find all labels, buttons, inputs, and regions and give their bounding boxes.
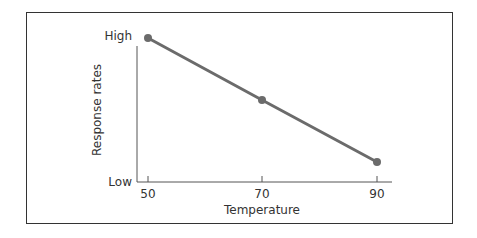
x-tick-label-50: 50 — [140, 187, 155, 201]
x-axis-title: Temperature — [223, 203, 300, 217]
y-axis-title: Response rates — [90, 64, 104, 156]
data-point-90 — [373, 158, 381, 166]
data-point-50 — [144, 34, 152, 42]
y-tick-label-high: High — [104, 29, 132, 43]
x-tick-label-90: 90 — [369, 187, 384, 201]
y-tick-label-low: Low — [108, 175, 132, 189]
line-chart: 50 70 90 High Low Temperature Response r… — [0, 0, 477, 238]
data-point-70 — [258, 96, 266, 104]
x-tick-label-70: 70 — [254, 187, 269, 201]
